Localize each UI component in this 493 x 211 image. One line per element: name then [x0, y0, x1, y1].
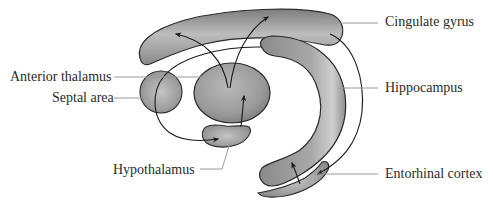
anterior-thalamus-shape: [194, 63, 270, 123]
label-entorhinal-cortex: Entorhinal cortex: [385, 166, 483, 182]
label-cingulate-gyrus: Cingulate gyrus: [385, 14, 474, 30]
hippocampus-shape: [260, 36, 346, 186]
label-hippocampus: Hippocampus: [385, 80, 463, 96]
leader-hypothalamus: [200, 146, 229, 169]
label-hypothalamus: Hypothalamus: [113, 162, 195, 178]
label-septal-area: Septal area: [52, 90, 114, 106]
papez-circuit-diagram: Cingulate gyrus Anterior thalamus Septal…: [0, 0, 493, 211]
label-anterior-thalamus: Anterior thalamus: [10, 69, 111, 85]
hypothalamus-shape: [202, 125, 250, 147]
